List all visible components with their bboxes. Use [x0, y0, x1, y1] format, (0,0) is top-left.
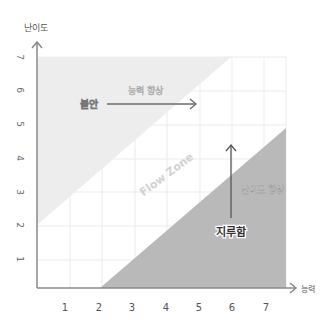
y-tick: 5 [15, 121, 25, 127]
x-tick: 1 [62, 302, 68, 313]
x-tick: 5 [196, 302, 202, 313]
boredom-label: 지루함 [216, 225, 246, 239]
y-tick: 1 [15, 256, 25, 262]
y-tick: 3 [15, 189, 25, 195]
y-tick: 2 [15, 222, 25, 228]
x-tick: 2 [96, 302, 102, 313]
boredom-region [100, 128, 286, 288]
y-tick-labels: 1 2 3 4 5 6 7 [15, 54, 25, 262]
y-tick: 6 [15, 87, 25, 93]
x-tick: 7 [263, 302, 269, 313]
anxiety-region [37, 57, 231, 225]
y-tick: 7 [15, 54, 25, 60]
y-axis-title: 난이도 [24, 23, 48, 33]
x-axis-title: 능력 [301, 284, 315, 294]
x-tick: 3 [129, 302, 135, 313]
difficulty-up-label: 난이도 향상 [241, 184, 284, 195]
x-tick-labels: 1 2 3 4 5 6 7 [62, 302, 269, 313]
flow-chart: 난이도 능력 1 2 3 4 5 6 7 1 2 3 4 5 6 7 불안 능력… [0, 0, 332, 330]
anxiety-label: 불안 [80, 98, 99, 110]
x-tick: 6 [229, 302, 235, 313]
x-tick: 4 [163, 302, 169, 313]
skill-up-label: 능력 향상 [128, 85, 163, 96]
y-tick: 4 [15, 155, 25, 161]
